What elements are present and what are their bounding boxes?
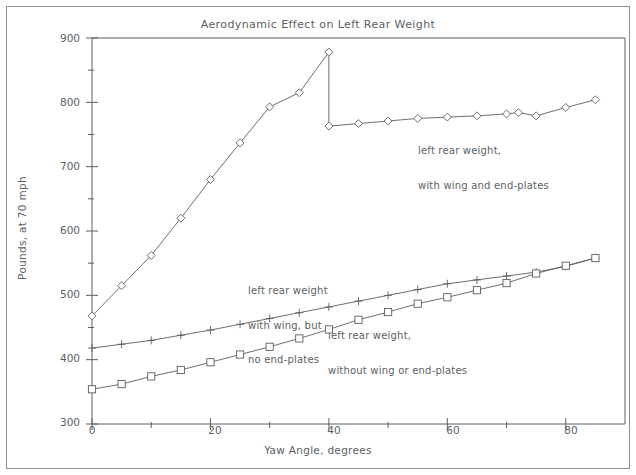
data-point-diamond — [325, 122, 333, 130]
series-line — [92, 258, 595, 348]
square-marker-icon — [207, 359, 214, 366]
data-point-plus — [384, 291, 392, 299]
data-point-diamond — [503, 110, 511, 118]
diamond-marker-icon — [514, 109, 522, 117]
data-point-diamond — [325, 48, 333, 56]
data-point-square — [533, 270, 540, 277]
square-marker-icon — [296, 335, 303, 342]
series-group — [88, 48, 599, 393]
data-point-square — [207, 359, 214, 366]
series-0 — [88, 48, 599, 320]
square-marker-icon — [414, 300, 421, 307]
series-2 — [88, 254, 599, 392]
data-point-square — [503, 280, 510, 287]
square-marker-icon — [503, 280, 510, 287]
plot-area — [0, 0, 636, 475]
data-point-diamond — [562, 103, 570, 111]
data-point-plus — [206, 326, 214, 334]
data-point-diamond — [355, 120, 363, 128]
data-point-plus — [295, 309, 303, 317]
square-marker-icon — [88, 386, 95, 393]
data-point-square — [385, 308, 392, 315]
data-point-square — [562, 262, 569, 269]
series-line — [92, 52, 595, 316]
data-point-plus — [147, 336, 155, 344]
data-point-diamond — [514, 109, 522, 117]
data-point-square — [473, 287, 480, 294]
square-marker-icon — [533, 270, 540, 277]
data-point-diamond — [414, 114, 422, 122]
data-point-square — [177, 366, 184, 373]
data-point-square — [118, 381, 125, 388]
data-point-plus — [266, 314, 274, 322]
square-marker-icon — [473, 287, 480, 294]
data-point-plus — [236, 320, 244, 328]
square-marker-icon — [562, 262, 569, 269]
data-point-diamond — [532, 112, 540, 120]
data-point-plus — [88, 344, 96, 352]
data-point-square — [592, 254, 599, 261]
square-marker-icon — [118, 381, 125, 388]
chart-figure: Aerodynamic Effect on Left Rear Weight P… — [0, 0, 636, 475]
square-marker-icon — [177, 366, 184, 373]
diamond-marker-icon — [591, 96, 599, 104]
diamond-marker-icon — [325, 122, 333, 130]
diamond-marker-icon — [384, 117, 392, 125]
data-point-square — [236, 351, 243, 358]
diamond-marker-icon — [562, 103, 570, 111]
data-point-diamond — [473, 112, 481, 120]
data-point-plus — [414, 286, 422, 294]
data-point-square — [355, 316, 362, 323]
data-point-diamond — [443, 113, 451, 121]
data-point-square — [444, 294, 451, 301]
square-marker-icon — [266, 343, 273, 350]
data-point-plus — [473, 276, 481, 284]
square-marker-icon — [444, 294, 451, 301]
square-marker-icon — [355, 316, 362, 323]
data-point-square — [88, 386, 95, 393]
data-point-diamond — [384, 117, 392, 125]
data-point-plus — [443, 280, 451, 288]
diamond-marker-icon — [443, 113, 451, 121]
data-point-square — [325, 326, 332, 333]
data-point-square — [148, 373, 155, 380]
diamond-marker-icon — [355, 120, 363, 128]
series-line — [92, 258, 595, 389]
diamond-marker-icon — [532, 112, 540, 120]
square-marker-icon — [148, 373, 155, 380]
square-marker-icon — [236, 351, 243, 358]
diamond-marker-icon — [295, 89, 303, 97]
series-1 — [88, 254, 599, 352]
data-point-plus — [118, 340, 126, 348]
square-marker-icon — [385, 308, 392, 315]
data-point-plus — [325, 303, 333, 311]
data-point-diamond — [295, 89, 303, 97]
data-point-diamond — [591, 96, 599, 104]
diamond-marker-icon — [473, 112, 481, 120]
data-point-square — [266, 343, 273, 350]
data-point-square — [296, 335, 303, 342]
data-point-square — [414, 300, 421, 307]
data-point-plus — [355, 297, 363, 305]
square-marker-icon — [592, 254, 599, 261]
diamond-marker-icon — [503, 110, 511, 118]
axes-group — [86, 38, 625, 430]
square-marker-icon — [325, 326, 332, 333]
data-point-plus — [503, 272, 511, 280]
diamond-marker-icon — [414, 114, 422, 122]
data-point-plus — [177, 331, 185, 339]
diamond-marker-icon — [325, 48, 333, 56]
